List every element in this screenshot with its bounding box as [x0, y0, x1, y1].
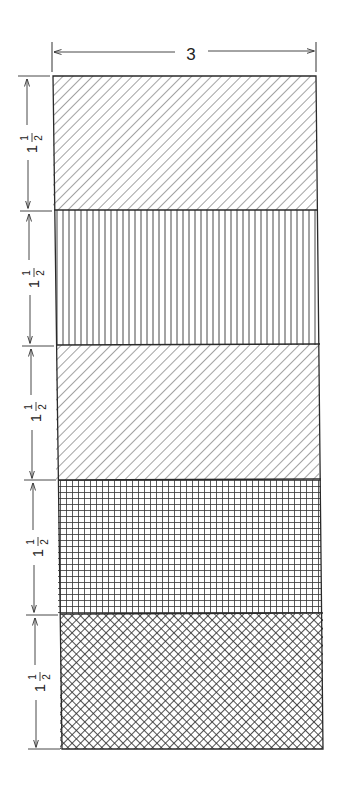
section-2 — [54, 210, 318, 345]
height-dim-2: 1 1 2 — [21, 214, 46, 343]
height-dim-3: 1 1 2 — [23, 349, 48, 478]
height-label-den: 2 — [39, 539, 50, 545]
width-dimension: 3 — [52, 42, 316, 72]
section-1 — [53, 76, 316, 210]
section-4 — [58, 480, 321, 614]
height-dim-1: 1 1 2 — [19, 79, 44, 208]
height-label-whole: 1 — [25, 280, 42, 288]
height-label-whole: 1 — [31, 684, 48, 692]
height-label-num: 1 — [25, 539, 36, 545]
height-dim-5: 1 1 2 — [27, 618, 52, 747]
height-label-den: 2 — [33, 135, 44, 141]
height-label-den: 2 — [37, 404, 48, 410]
stacked-rectangle-diagram: 3 1 1 2 — [0, 0, 342, 803]
width-label: 3 — [186, 45, 195, 64]
height-label-num: 1 — [19, 135, 30, 141]
height-label-whole: 1 — [27, 414, 44, 422]
section-3 — [56, 345, 319, 480]
height-label-whole: 1 — [29, 549, 46, 557]
height-label-num: 1 — [21, 270, 32, 276]
height-label-den: 2 — [35, 270, 46, 276]
height-label-num: 1 — [23, 404, 34, 410]
height-label-den: 2 — [41, 674, 52, 680]
height-label-num: 1 — [27, 674, 38, 680]
height-dim-4: 1 1 2 — [25, 483, 50, 612]
height-label-whole: 1 — [23, 145, 40, 153]
section-5 — [60, 614, 323, 749]
